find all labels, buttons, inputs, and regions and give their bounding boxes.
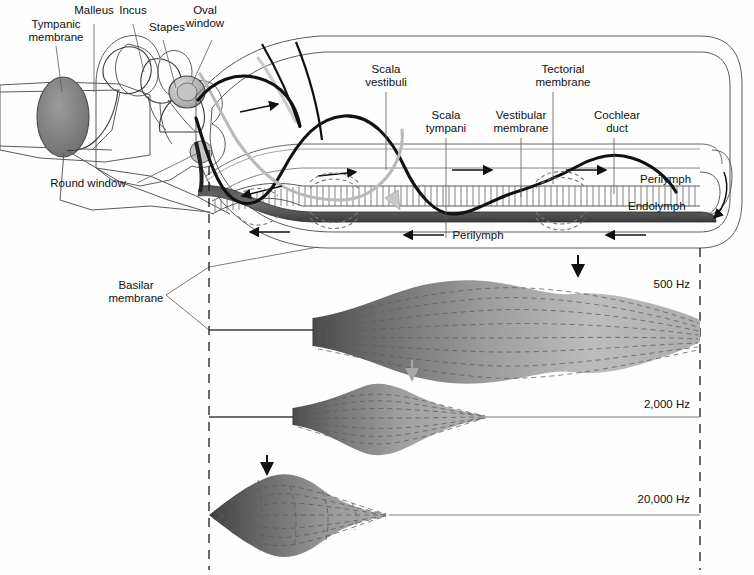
label-tympanic-membrane-line1: Tympanic (31, 18, 80, 30)
label-malleus: Malleus (74, 4, 114, 16)
label-frequency-500: 500 Hz (654, 278, 691, 290)
panel-500: 500 Hz (209, 255, 700, 384)
label-round-window: Round window (50, 177, 126, 189)
label-vestibular-membrane-line1: Vestibular (496, 109, 547, 121)
label-vestibular-membrane-line2: membrane (494, 122, 549, 134)
leader-basilar-upper (166, 247, 318, 295)
label-endolymph: Endolymph (628, 200, 686, 212)
flow-arrow-lower-1 (242, 186, 282, 196)
leader-stapes (163, 40, 176, 88)
label-frequency-20000: 20,000 Hz (638, 493, 691, 505)
flow-arrow-upper-1 (240, 104, 278, 112)
tympanic-membrane-shape (37, 77, 89, 157)
cochlea-diagram: Tympanic membrane Malleus Incus Stapes O… (0, 0, 754, 575)
label-frequency-2000: 2,000 Hz (644, 398, 690, 410)
label-oval-window-line1: Oval (193, 4, 217, 16)
label-basilar-membrane-line2: membrane (109, 292, 164, 304)
label-scala-tympani-line2: tympani (426, 122, 466, 134)
label-scala-vestibuli-line1: Scala (372, 63, 401, 75)
label-cochlear-duct-line2: duct (606, 122, 629, 134)
basilar-membrane-callout: Basilar membrane (109, 247, 318, 330)
label-tectorial-membrane-line1: Tectorial (542, 63, 585, 75)
label-perilymph-lower: Perilymph (452, 229, 503, 241)
anatomy-labels: Tympanic membrane Malleus Incus Stapes O… (29, 4, 692, 241)
figure-canvas: Tympanic membrane Malleus Incus Stapes O… (0, 0, 754, 575)
label-perilymph-upper: Perilymph (640, 173, 691, 185)
label-tympanic-membrane-line2: membrane (29, 31, 84, 43)
panel-20000: 20,000 Hz (209, 455, 700, 557)
label-incus: Incus (119, 4, 147, 16)
label-tectorial-membrane-line2: membrane (536, 76, 591, 88)
leader-basilar-lower (166, 295, 209, 330)
label-stapes: Stapes (149, 21, 185, 33)
label-scala-tympani-line1: Scala (432, 109, 461, 121)
envelope-20000 (209, 474, 389, 557)
label-oval-window-line2: window (185, 17, 225, 29)
label-scala-vestibuli-line2: vestibuli (365, 76, 407, 88)
traveling-wave-gray (200, 74, 402, 200)
label-basilar-membrane-line1: Basilar (118, 279, 153, 291)
label-cochlear-duct-line1: Cochlear (594, 109, 640, 121)
envelope-500 (313, 280, 700, 383)
